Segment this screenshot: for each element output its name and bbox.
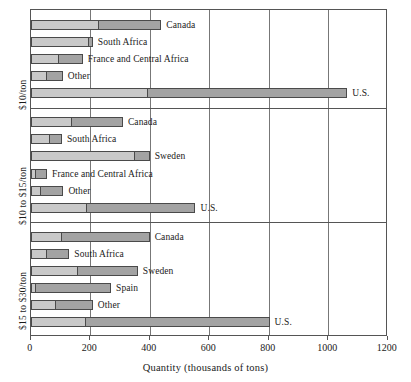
bar--10-to-15-ton-south-africa: [31, 134, 62, 144]
bar-segment-2: [71, 117, 123, 127]
bar-segment-1: [31, 88, 148, 98]
bar-segment-2: [88, 37, 93, 47]
bar-label: Other: [68, 71, 90, 81]
x-tick-mark: [268, 336, 269, 340]
bar-label: South Africa: [74, 249, 123, 259]
bar--10-ton-canada: [31, 20, 162, 30]
x-tick-label: 400: [141, 342, 156, 353]
bar-label: U.S.: [275, 317, 292, 327]
panel-label-2: $15 to $30/ton: [18, 272, 28, 330]
bar-label: South Africa: [98, 37, 147, 47]
x-tick-label: 0: [27, 342, 32, 353]
bar-label: Other: [68, 186, 90, 196]
bar-segment-1: [31, 20, 99, 30]
x-tick-mark: [387, 336, 388, 340]
bar-segment-2: [46, 249, 70, 259]
bar-chart: CanadaSouth AfricaFrance and Central Afr…: [0, 0, 411, 382]
bar-segment-2: [134, 151, 150, 161]
bar--10-to-15-ton-u-s-: [31, 203, 196, 213]
bar-segment-1: [31, 54, 60, 64]
bar-segment-1: [31, 232, 63, 242]
bar-label: South Africa: [67, 134, 116, 144]
x-tick-label: 200: [82, 342, 97, 353]
bar-label: U.S.: [201, 203, 218, 213]
x-tick-label: 1000: [317, 342, 337, 353]
bar-segment-2: [85, 317, 270, 327]
bar--10-to-15-ton-canada: [31, 117, 123, 127]
bar-segment-1: [31, 300, 56, 310]
bar--15-to-30-ton-other: [31, 300, 93, 310]
bar--15-to-30-ton-u-s-: [31, 317, 270, 327]
x-tick-label: 1200: [377, 342, 397, 353]
bar-label: Sweden: [155, 151, 186, 161]
x-tick-mark: [30, 336, 31, 340]
bar-label: Sweden: [143, 266, 174, 276]
gridline-800: [269, 10, 270, 335]
bar-segment-2: [147, 88, 347, 98]
bar-label: Other: [98, 300, 120, 310]
bar-segment-2: [86, 203, 196, 213]
bar-segment-2: [61, 232, 149, 242]
bar-segment-1: [31, 71, 47, 81]
bar-segment-2: [35, 169, 47, 179]
bar--10-ton-south-africa: [31, 37, 93, 47]
panel-separator-2: [31, 222, 386, 223]
bar-segment-1: [31, 203, 87, 213]
x-tick-label: 600: [201, 342, 216, 353]
bar--15-to-30-ton-sweden: [31, 266, 138, 276]
bar-segment-1: [31, 117, 72, 127]
x-tick-label: 800: [260, 342, 275, 353]
plot-area: CanadaSouth AfricaFrance and Central Afr…: [30, 9, 387, 336]
panel-separator-1: [31, 108, 386, 109]
x-tick-mark: [89, 336, 90, 340]
bar-segment-1: [31, 317, 86, 327]
bar--10-to-15-ton-other: [31, 186, 64, 196]
x-tick-mark: [327, 336, 328, 340]
bar-label: Canada: [155, 232, 184, 242]
panel-label-1: $10 to $15/ton: [18, 167, 28, 225]
bar-segment-2: [35, 283, 111, 293]
bar--15-to-30-ton-canada: [31, 232, 150, 242]
x-tick-mark: [208, 336, 209, 340]
panel-label-0: $10/ton: [18, 80, 28, 110]
bar-segment-2: [40, 186, 63, 196]
bar-segment-1: [31, 37, 89, 47]
x-tick-mark: [149, 336, 150, 340]
bar--15-to-30-ton-south-africa: [31, 249, 70, 259]
bar-label: France and Central Africa: [52, 169, 153, 179]
bar-segment-1: [31, 151, 135, 161]
bar-segment-2: [46, 71, 63, 81]
bar-label: Spain: [116, 283, 138, 293]
bar-segment-1: [31, 266, 78, 276]
bar--10-ton-france-and-central-africa: [31, 54, 83, 64]
bar--10-to-15-ton-sweden: [31, 151, 150, 161]
bar-label: France and Central Africa: [88, 54, 189, 64]
bar-segment-1: [31, 249, 47, 259]
bar-segment-2: [55, 300, 93, 310]
bar--10-to-15-ton-france-and-central-africa: [31, 169, 47, 179]
x-axis-label: Quantity (thousands of tons): [0, 362, 411, 373]
bar--10-ton-other: [31, 71, 63, 81]
bar-segment-2: [98, 20, 161, 30]
bar-label: Canada: [166, 20, 195, 30]
bar--15-to-30-ton-spain: [31, 283, 111, 293]
gridline-1000: [328, 10, 329, 335]
gridline-600: [209, 10, 210, 335]
bar--10-ton-u-s-: [31, 88, 348, 98]
bar-label: Canada: [128, 117, 157, 127]
bar-label: U.S.: [352, 88, 369, 98]
bar-segment-2: [77, 266, 138, 276]
bar-segment-2: [49, 134, 62, 144]
bar-segment-1: [31, 134, 50, 144]
bar-segment-2: [58, 54, 83, 64]
